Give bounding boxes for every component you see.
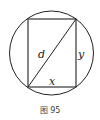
figure-diagram: d y x 图 95 bbox=[0, 0, 100, 120]
figure-caption: 图 95 bbox=[40, 106, 61, 115]
label-y: y bbox=[77, 48, 85, 61]
label-x: x bbox=[49, 75, 56, 88]
label-d: d bbox=[38, 48, 45, 61]
